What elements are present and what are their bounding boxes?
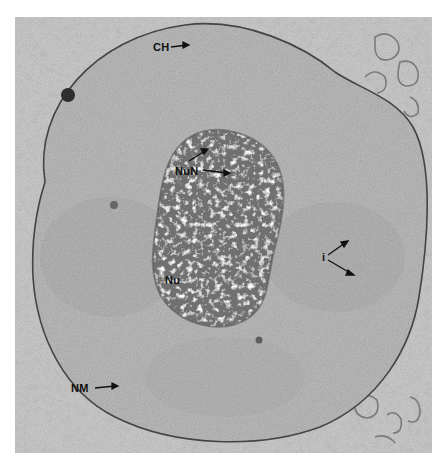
label-nucleolus: Nu	[165, 275, 180, 286]
label-chromatin: CH	[153, 42, 170, 53]
label-inclusion: i	[322, 252, 325, 263]
label-nucleolar-nucleus: NuN	[175, 166, 199, 177]
electron-micrograph: CH NuN Nu i NM	[15, 17, 432, 453]
label-nuclear-membrane: NM	[71, 383, 89, 394]
